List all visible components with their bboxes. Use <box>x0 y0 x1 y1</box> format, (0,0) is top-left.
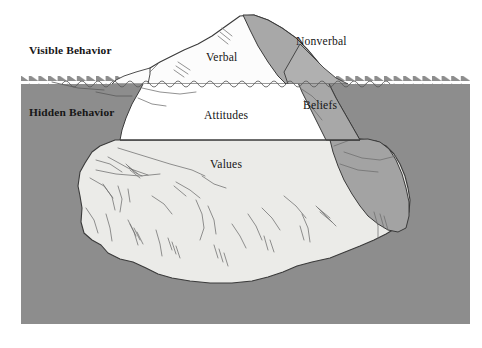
attitudes-label: Attitudes <box>204 110 248 122</box>
beliefs-label: Beliefs <box>303 100 337 112</box>
hidden-behavior-label: Hidden Behavior <box>29 107 114 118</box>
visible-behavior-label: Visible Behavior <box>29 45 112 56</box>
verbal-label: Verbal <box>206 52 237 64</box>
nonverbal-label: Nonverbal <box>296 36 347 48</box>
iceberg-figure: Visible Behavior Hidden Behavior Verbal … <box>0 0 482 348</box>
iceberg-peak <box>112 15 348 84</box>
values-label: Values <box>210 159 242 171</box>
